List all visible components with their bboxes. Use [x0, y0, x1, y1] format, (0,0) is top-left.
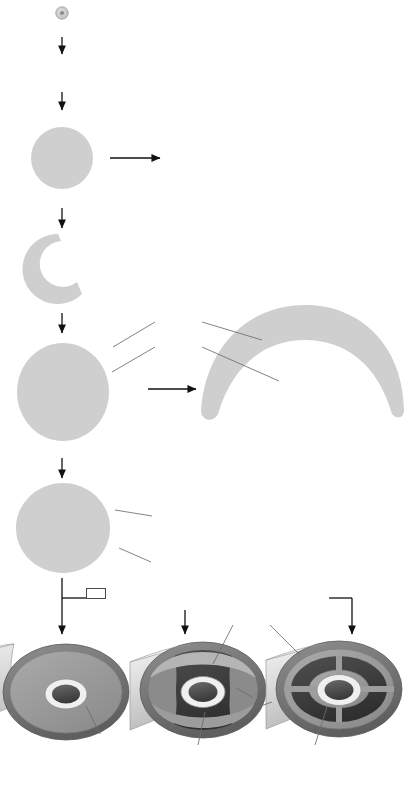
- early-gastrula-stage: [23, 234, 82, 304]
- acoelomate-cross-section: [0, 644, 129, 740]
- coelomate-cross-section: [266, 641, 402, 737]
- pathway-branch-lines: [62, 578, 352, 634]
- development-diagram-svg: [0, 0, 413, 797]
- leader-lines: [112, 322, 279, 562]
- mesoderm-stage-embryo: [16, 483, 110, 573]
- pseudocoelomate-cross-section: [130, 642, 266, 738]
- branch-arrows: [110, 158, 196, 389]
- gastrula-stage: [17, 343, 109, 441]
- zygote-cell: [56, 7, 68, 19]
- adult-cnidarian-body: [201, 305, 404, 420]
- blastula-stage: [31, 127, 93, 189]
- pathways-box: [86, 588, 106, 599]
- diagram-canvas: [0, 0, 413, 797]
